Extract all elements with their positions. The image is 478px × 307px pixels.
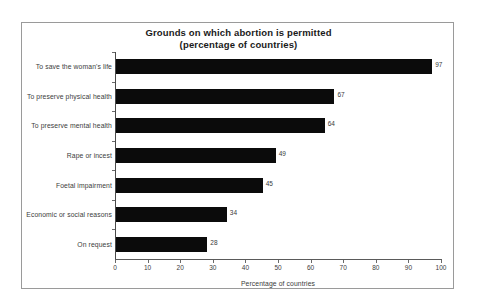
x-axis-tick-label: 70 — [340, 264, 347, 271]
category-label: Rape or incest — [0, 152, 112, 159]
x-axis-tick — [180, 260, 181, 263]
bar — [116, 207, 227, 222]
bar — [116, 118, 325, 133]
x-axis-tick — [343, 260, 344, 263]
x-axis-tick-label: 20 — [177, 264, 184, 271]
x-axis-tick-label: 80 — [372, 264, 379, 271]
x-axis-tick — [441, 260, 442, 263]
x-axis-tick-label: 30 — [209, 264, 216, 271]
chart-title: Grounds on which abortion is permitted (… — [22, 27, 455, 51]
bar-value-label: 34 — [230, 209, 237, 216]
bar-value-label: 45 — [266, 180, 273, 187]
y-axis-tick — [112, 82, 115, 83]
bar-value-label: 97 — [435, 61, 442, 68]
chart-title-line1: Grounds on which abortion is permitted — [145, 27, 331, 38]
bar-row: 67 — [116, 89, 442, 104]
x-axis-tick — [148, 260, 149, 263]
plot-area: To save the woman's lifeTo preserve phys… — [115, 52, 441, 259]
x-axis-tick — [115, 260, 116, 263]
bar-row: 34 — [116, 207, 442, 222]
x-axis-tick-label: 90 — [405, 264, 412, 271]
y-axis-tick — [112, 52, 115, 53]
y-axis-tick — [112, 229, 115, 230]
x-axis-tick — [376, 260, 377, 263]
category-label: To preserve physical health — [0, 93, 112, 100]
x-axis-tick — [245, 260, 246, 263]
bar — [116, 237, 207, 252]
bar-row: 49 — [116, 148, 442, 163]
bar — [116, 89, 334, 104]
bar — [116, 148, 276, 163]
bar — [116, 59, 432, 74]
x-axis-tick — [213, 260, 214, 263]
y-axis-tick — [112, 170, 115, 171]
bar-row: 45 — [116, 178, 442, 193]
x-axis-tick-label: 0 — [113, 264, 117, 271]
x-axis-tick-label: 100 — [436, 264, 447, 271]
chart-subtitle: (percentage of countries) — [22, 39, 455, 51]
x-axis-tick-label: 10 — [144, 264, 151, 271]
category-label: Economic or social reasons — [0, 211, 112, 218]
x-axis-tick-label: 60 — [307, 264, 314, 271]
x-axis-title: Percentage of countries — [115, 280, 441, 287]
category-label: On request — [0, 241, 112, 248]
category-label: To preserve mental health — [0, 122, 112, 129]
bar-value-label: 67 — [337, 91, 344, 98]
bar-row: 28 — [116, 237, 442, 252]
bar — [116, 178, 263, 193]
x-axis-tick-label: 40 — [242, 264, 249, 271]
x-axis-tick — [408, 260, 409, 263]
category-label: Foetal impairment — [0, 182, 112, 189]
category-axis-labels: To save the woman's lifeTo preserve phys… — [0, 52, 112, 259]
bar-value-label: 28 — [210, 239, 217, 246]
bar-value-label: 49 — [279, 150, 286, 157]
y-axis-tick — [112, 141, 115, 142]
bar-row: 97 — [116, 59, 442, 74]
x-axis-tick — [311, 260, 312, 263]
chart-frame: Grounds on which abortion is permitted (… — [21, 22, 454, 289]
x-axis-tick-label: 50 — [274, 264, 281, 271]
bar-row: 64 — [116, 118, 442, 133]
bar-value-label: 64 — [328, 120, 335, 127]
category-label: To save the woman's life — [0, 63, 112, 70]
x-axis-tick — [278, 260, 279, 263]
y-axis-tick — [112, 200, 115, 201]
y-axis-tick — [112, 111, 115, 112]
